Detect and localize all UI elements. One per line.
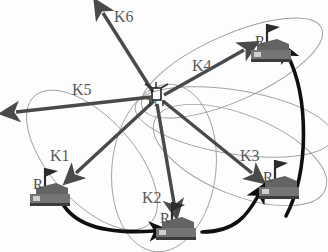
vehicle-label-R4: R: [255, 34, 265, 49]
vehicle-label-R1: R: [33, 177, 43, 192]
beam-label-K6: K6: [114, 9, 134, 25]
beam-label-K1: K1: [50, 148, 70, 164]
vehicle-label-R3: R: [263, 170, 273, 185]
vehicle-label-R2: R: [160, 211, 170, 226]
beam-label-K5: K5: [72, 82, 92, 98]
diagram-canvas: K1 K2 K3 K4 K5 K6 R R R R T1: [0, 0, 328, 252]
beam-label-K3: K3: [240, 148, 260, 164]
beam-label-K4: K4: [192, 58, 212, 74]
beam-label-K2: K2: [142, 190, 162, 206]
hub-label-T1: T1: [147, 98, 158, 108]
